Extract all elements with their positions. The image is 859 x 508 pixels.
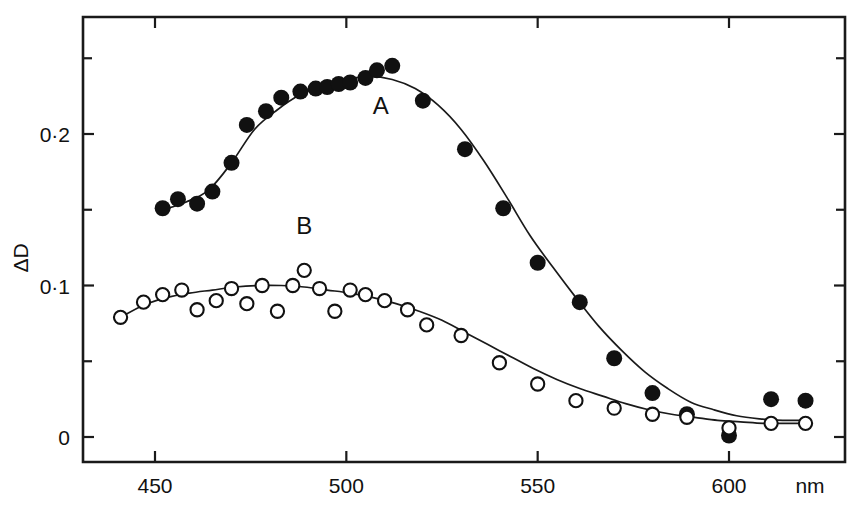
x-tick-label-500: 500: [329, 474, 364, 497]
data-point-B-23: [608, 402, 621, 415]
data-point-B-2: [156, 288, 169, 301]
plot-frame: [83, 17, 845, 462]
series-label-A: A: [373, 92, 389, 119]
data-point-A-15: [384, 58, 400, 74]
x-axis-title: nm: [795, 474, 824, 497]
data-point-A-19: [530, 255, 546, 271]
data-point-A-8: [292, 84, 308, 100]
data-point-B-3: [175, 283, 188, 296]
data-point-A-1: [170, 191, 186, 207]
y-axis-tick-labels: 00·10·2: [40, 123, 70, 449]
y-tick-label-0: 0: [58, 426, 70, 449]
data-point-B-9: [271, 305, 284, 318]
data-point-A-5: [239, 117, 255, 133]
data-point-B-24: [646, 408, 659, 421]
fitted-curves-group: [121, 76, 806, 423]
data-point-A-14: [369, 62, 385, 78]
data-point-A-0: [155, 200, 171, 216]
data-point-B-15: [359, 288, 372, 301]
data-point-B-19: [455, 329, 468, 342]
data-point-A-20: [572, 294, 588, 310]
data-point-B-8: [256, 279, 269, 292]
data-point-A-6: [258, 103, 274, 119]
series-label-B: B: [296, 212, 312, 239]
data-point-A-4: [224, 155, 240, 171]
data-point-B-20: [493, 356, 506, 369]
data-point-A-22: [644, 385, 660, 401]
data-point-A-3: [204, 184, 220, 200]
data-point-B-26: [722, 421, 735, 434]
axis-frame-path: [83, 17, 845, 462]
data-point-A-12: [342, 74, 358, 90]
data-point-B-5: [210, 294, 223, 307]
data-point-A-26: [798, 393, 814, 409]
data-point-B-16: [378, 294, 391, 307]
data-point-B-13: [328, 305, 341, 318]
data-point-A-21: [606, 350, 622, 366]
figure-container: 450500550600 00·10·2 AB nm ΔD: [0, 0, 859, 508]
y-axis-title: ΔD: [9, 243, 32, 272]
spectrum-chart: 450500550600 00·10·2 AB nm ΔD: [0, 0, 859, 508]
y-tick-label-2: 0·2: [40, 123, 70, 146]
x-tick-label-450: 450: [137, 474, 172, 497]
data-point-B-25: [680, 411, 693, 424]
x-axis-tick-labels: 450500550600: [137, 474, 746, 497]
data-point-B-1: [137, 296, 150, 309]
y-tick-label-1: 0·1: [40, 275, 70, 298]
x-tick-label-600: 600: [711, 474, 746, 497]
data-point-B-11: [298, 264, 311, 277]
data-point-B-18: [420, 318, 433, 331]
data-point-A-25: [763, 391, 779, 407]
fitted-curve-A-fit: [163, 76, 806, 420]
data-point-B-4: [190, 303, 203, 316]
data-point-B-10: [286, 279, 299, 292]
data-point-B-21: [531, 377, 544, 390]
data-point-B-6: [225, 282, 238, 295]
data-point-B-28: [799, 417, 812, 430]
fitted-curve-B-fit: [121, 285, 806, 423]
data-point-A-7: [273, 90, 289, 106]
data-point-B-7: [240, 297, 253, 310]
data-point-A-16: [415, 93, 431, 109]
data-point-A-18: [495, 200, 511, 216]
x-tick-label-550: 550: [520, 474, 555, 497]
data-point-B-0: [114, 311, 127, 324]
data-points-group: [114, 58, 814, 444]
data-point-B-17: [401, 303, 414, 316]
data-point-B-27: [764, 417, 777, 430]
data-point-A-2: [189, 196, 205, 212]
data-point-B-14: [344, 283, 357, 296]
axis-ticks-group: [83, 17, 845, 462]
data-point-B-12: [313, 282, 326, 295]
series-A-points: [155, 58, 814, 444]
data-point-A-17: [457, 141, 473, 157]
data-point-B-22: [569, 394, 582, 407]
series-annotations-group: AB: [296, 92, 389, 239]
